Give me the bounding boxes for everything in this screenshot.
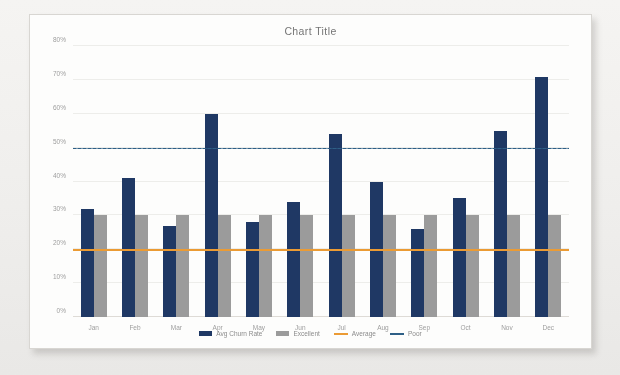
- bar-excellent[interactable]: [466, 215, 479, 317]
- legend-item-excellent[interactable]: Excellent: [276, 330, 319, 337]
- bar-group: Jan: [73, 46, 114, 317]
- chart-card: Chart Title 0%10%20%30%40%50%60%70%80% J…: [29, 14, 592, 349]
- legend-item-average[interactable]: Average: [334, 330, 376, 337]
- bar-excellent[interactable]: [218, 215, 231, 317]
- y-axis-tick-label: 40%: [53, 171, 66, 178]
- bar-excellent[interactable]: [300, 215, 313, 317]
- bar-avg-churn-rate[interactable]: [370, 182, 383, 318]
- bar-group: Jun: [280, 46, 321, 317]
- bar-group: Sep: [404, 46, 445, 317]
- legend-label: Avg Churn Rate: [216, 330, 262, 337]
- bar-avg-churn-rate[interactable]: [287, 202, 300, 317]
- bar-excellent[interactable]: [176, 215, 189, 317]
- bar-excellent[interactable]: [383, 215, 396, 317]
- y-axis-tick-label: 0%: [57, 307, 66, 314]
- y-axis-tick-label: 80%: [53, 36, 66, 43]
- legend-label: Average: [352, 330, 376, 337]
- y-axis-tick-label: 20%: [53, 239, 66, 246]
- bar-excellent[interactable]: [259, 215, 272, 317]
- bar-excellent[interactable]: [94, 215, 107, 317]
- legend-swatch-icon: [276, 331, 289, 336]
- bar-excellent[interactable]: [424, 215, 437, 317]
- y-axis-tick-label: 50%: [53, 137, 66, 144]
- bar-group: Aug: [362, 46, 403, 317]
- legend-swatch-icon: [390, 333, 404, 335]
- chart-title: Chart Title: [30, 25, 591, 37]
- bar-group: Apr: [197, 46, 238, 317]
- bar-avg-churn-rate[interactable]: [122, 178, 135, 317]
- bar-group: Dec: [528, 46, 569, 317]
- bar-excellent[interactable]: [507, 215, 520, 317]
- legend-label: Poor: [408, 330, 422, 337]
- plot-area: 0%10%20%30%40%50%60%70%80% JanFebMarAprM…: [73, 46, 569, 317]
- chart-legend: Avg Churn RateExcellentAveragePoor: [30, 330, 591, 337]
- bar-group: Jul: [321, 46, 362, 317]
- bar-avg-churn-rate[interactable]: [163, 226, 176, 317]
- bar-group: Feb: [114, 46, 155, 317]
- y-axis-tick-label: 30%: [53, 205, 66, 212]
- bar-avg-churn-rate[interactable]: [494, 131, 507, 317]
- bar-excellent[interactable]: [548, 215, 561, 317]
- legend-label: Excellent: [293, 330, 319, 337]
- bar-avg-churn-rate[interactable]: [329, 134, 342, 317]
- bar-avg-churn-rate[interactable]: [411, 229, 424, 317]
- y-axis-tick-label: 10%: [53, 273, 66, 280]
- chart-plot-container: Chart Title 0%10%20%30%40%50%60%70%80% J…: [30, 15, 591, 348]
- bar-avg-churn-rate[interactable]: [246, 222, 259, 317]
- legend-item-avg-churn-rate[interactable]: Avg Churn Rate: [199, 330, 262, 337]
- legend-swatch-icon: [334, 333, 348, 335]
- bar-group: Oct: [445, 46, 486, 317]
- bar-avg-churn-rate[interactable]: [205, 114, 218, 317]
- bar-group: Mar: [156, 46, 197, 317]
- bar-avg-churn-rate[interactable]: [535, 77, 548, 318]
- bar-group: Nov: [486, 46, 527, 317]
- legend-swatch-icon: [199, 331, 212, 336]
- legend-item-poor[interactable]: Poor: [390, 330, 422, 337]
- bar-group: May: [238, 46, 279, 317]
- bar-excellent[interactable]: [135, 215, 148, 317]
- bar-groups: JanFebMarAprMayJunJulAugSepOctNovDec: [73, 46, 569, 317]
- y-axis-tick-label: 70%: [53, 69, 66, 76]
- bar-avg-churn-rate[interactable]: [81, 209, 94, 317]
- y-axis-tick-label: 60%: [53, 103, 66, 110]
- bar-excellent[interactable]: [342, 215, 355, 317]
- bar-avg-churn-rate[interactable]: [453, 198, 466, 317]
